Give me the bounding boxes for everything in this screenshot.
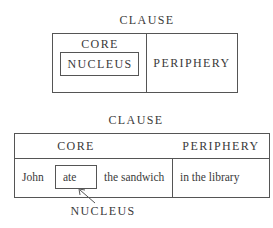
bottom-nucleus-label: NUCLEUS — [70, 204, 135, 219]
nucleus-pointer-arrow-icon — [0, 0, 273, 228]
